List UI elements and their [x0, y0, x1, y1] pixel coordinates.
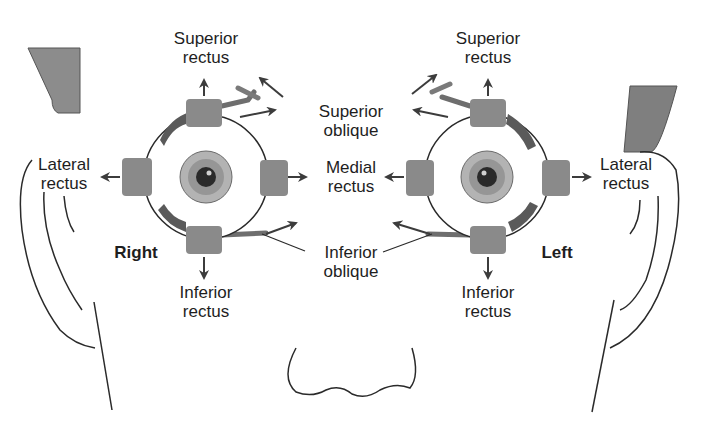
left-jaw-line [592, 300, 614, 412]
label-left-lateral-rectus: Lateral rectus [590, 155, 662, 193]
left-superior-oblique-arrow-left [414, 110, 448, 117]
right-ear-inner [44, 192, 82, 310]
label-right-superior-rectus: Superior rectus [164, 29, 248, 67]
right-inferior-oblique-leader [262, 234, 305, 251]
extraocular-muscles-diagram: Superior rectus Lateral rectus Inferior … [0, 0, 704, 421]
right-superior-rectus-muscle [186, 99, 222, 127]
right-jaw-line [94, 302, 112, 410]
label-left-inferior-rectus: Inferior rectus [446, 283, 530, 321]
right-lateral-rectus-muscle [122, 158, 152, 196]
right-superior-oblique-arrow-right [240, 110, 275, 117]
label-right-inferior-rectus: Inferior rectus [164, 283, 248, 321]
label-right-side: Right [106, 243, 166, 262]
left-lateral-rectus-muscle [542, 160, 570, 196]
label-superior-oblique: Superior oblique [306, 102, 396, 140]
label-medial-rectus: Medial rectus [306, 158, 396, 196]
left-inferior-rectus-muscle [470, 226, 506, 254]
right-inferior-oblique-arrow [266, 223, 296, 234]
right-inferior-rectus-muscle [186, 226, 222, 254]
left-inferior-oblique-arrow [394, 223, 430, 234]
left-medial-rectus-muscle [406, 160, 434, 196]
right-head-outline [20, 48, 112, 410]
left-ear-fold [630, 200, 640, 234]
label-right-lateral-rectus: Lateral rectus [28, 155, 100, 193]
label-inferior-oblique: Inferior oblique [306, 243, 396, 281]
right-ear-fold [64, 196, 74, 232]
left-brow-shade [624, 86, 677, 152]
diagram-graphics [0, 0, 704, 421]
right-pupil [196, 167, 216, 187]
label-left-superior-rectus: Superior rectus [446, 29, 530, 67]
left-superior-oblique-tendon [442, 97, 470, 106]
right-medial-rectus-muscle [260, 160, 288, 196]
left-pupil [477, 167, 497, 187]
nose-outline [288, 348, 416, 396]
left-head-outline [592, 86, 679, 412]
label-left-side: Left [532, 243, 582, 262]
left-superior-rectus-muscle [470, 99, 506, 127]
left-superior-oblique-trochlea [432, 84, 450, 92]
right-brow-shade [28, 48, 80, 113]
right-superior-oblique-arrow-up [260, 78, 283, 97]
